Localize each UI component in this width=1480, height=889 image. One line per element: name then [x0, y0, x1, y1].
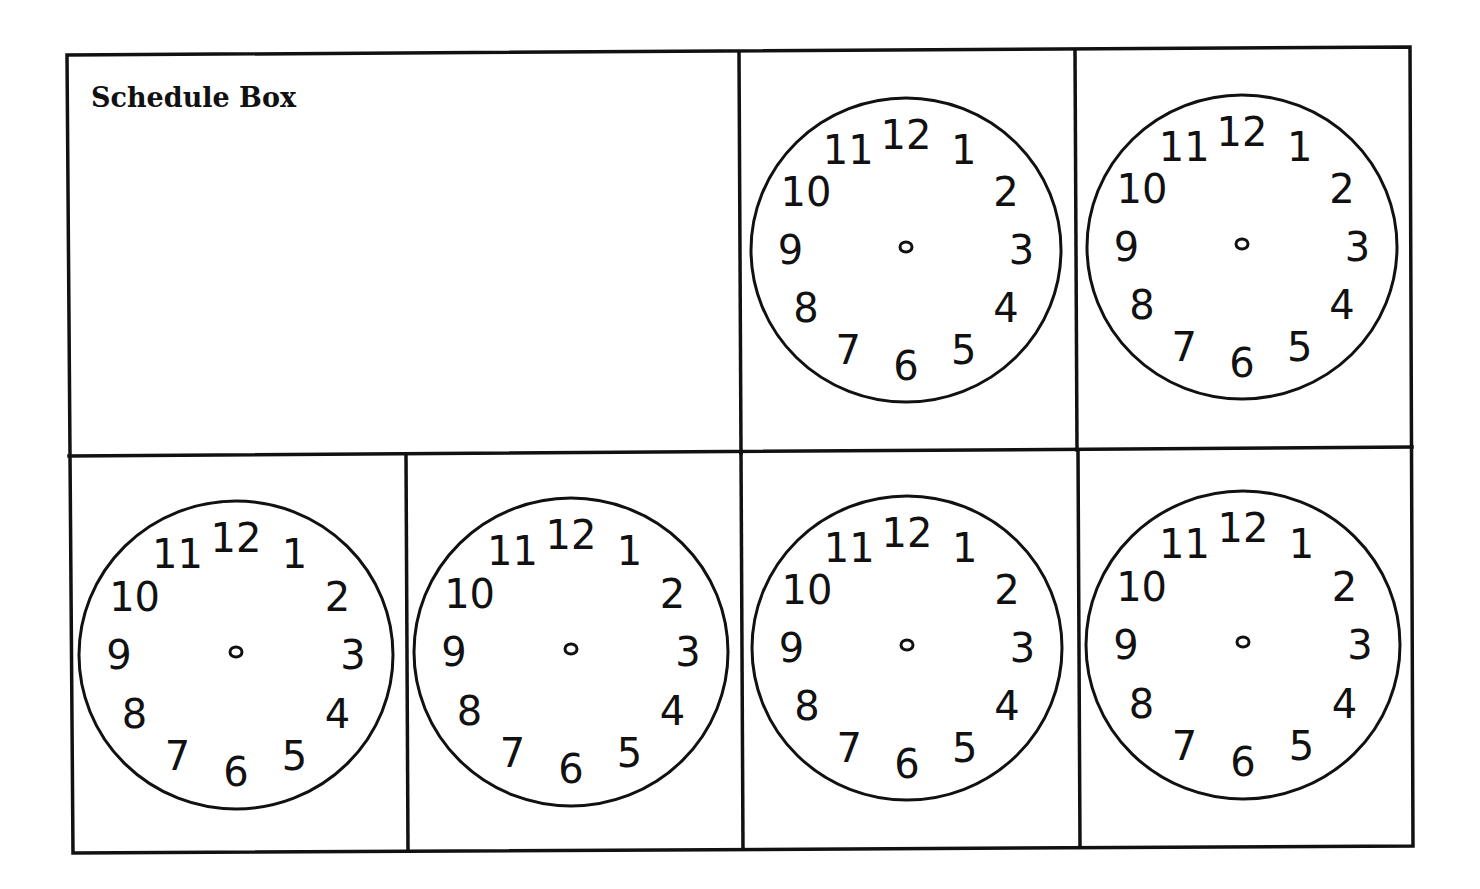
- schedule-box-title: Schedule Box: [91, 82, 296, 113]
- clock-number: 9: [1114, 224, 1139, 270]
- bottom-divider-1: [406, 455, 408, 851]
- clock-number: 7: [1171, 324, 1196, 370]
- clock-number: 6: [894, 741, 919, 787]
- clock-center-dot: [900, 242, 912, 252]
- clock-number: 9: [441, 629, 466, 675]
- clock-number: 2: [1332, 564, 1357, 610]
- clock-center-dot: [230, 647, 242, 657]
- clock-number: 8: [793, 285, 818, 331]
- clock-number: 12: [881, 112, 932, 158]
- clock-number: 9: [778, 227, 803, 273]
- clock-number: 9: [779, 625, 804, 671]
- clock-center-dot: [901, 640, 913, 650]
- clock-face: 121234567891011: [1087, 95, 1397, 399]
- clock-number: 6: [1229, 340, 1254, 386]
- clock-number: 12: [882, 510, 933, 556]
- clock-number: 10: [444, 571, 495, 617]
- top-divider-1: [739, 52, 741, 453]
- clock-number: 8: [1129, 681, 1154, 727]
- clock-face: 121234567891011: [1086, 491, 1400, 799]
- clock-center-dot: [1237, 637, 1249, 647]
- clock-number: 5: [1287, 324, 1312, 370]
- clock-number: 3: [1345, 224, 1370, 270]
- clock-number: 5: [952, 725, 977, 771]
- clock-number: 3: [340, 632, 365, 678]
- schedule-grid: 1212345678910111212345678910111212345678…: [0, 0, 1480, 889]
- clock-number: 10: [109, 574, 160, 620]
- clock-number: 2: [1329, 166, 1354, 212]
- clock-number: 7: [836, 725, 861, 771]
- clock-number: 7: [1172, 723, 1197, 769]
- clock-number: 12: [1218, 505, 1269, 551]
- clock-number: 3: [1009, 227, 1034, 273]
- worksheet: 1212345678910111212345678910111212345678…: [0, 0, 1480, 889]
- clock-number: 9: [1113, 622, 1138, 668]
- clock-number: 1: [1289, 521, 1314, 567]
- clock-number: 1: [951, 127, 976, 173]
- clock-face: 121234567891011: [751, 98, 1061, 402]
- clock-number: 3: [675, 629, 700, 675]
- clock-number: 6: [893, 343, 918, 389]
- clock-number: 5: [282, 733, 307, 779]
- clock-number: 7: [835, 327, 860, 373]
- clock-face: 121234567891011: [414, 498, 728, 806]
- clock-number: 1: [617, 528, 642, 574]
- clock-number: 3: [1010, 625, 1035, 671]
- clock-number: 10: [1117, 166, 1168, 212]
- clock-number: 1: [1287, 124, 1312, 170]
- clock-number: 5: [951, 327, 976, 373]
- clock-number: 10: [781, 169, 832, 215]
- clock-number: 2: [993, 169, 1018, 215]
- bottom-divider-2: [741, 453, 743, 849]
- clock-center-dot: [565, 644, 577, 654]
- clock-number: 4: [660, 688, 685, 734]
- clock-number: 7: [165, 733, 190, 779]
- clock-number: 6: [1230, 739, 1255, 785]
- clock-number: 11: [487, 528, 538, 574]
- clock-number: 10: [782, 567, 833, 613]
- clock-number: 4: [1332, 681, 1357, 727]
- clock-face: 121234567891011: [752, 496, 1062, 800]
- top-divider-2: [1075, 50, 1077, 450]
- clock-number: 8: [122, 691, 147, 737]
- clock-number: 1: [282, 531, 307, 577]
- clock-number: 2: [325, 574, 350, 620]
- clock-number: 1: [952, 525, 977, 571]
- clock-number: 8: [794, 683, 819, 729]
- clock-number: 7: [500, 730, 525, 776]
- clock-number: 9: [106, 632, 131, 678]
- clock-number: 4: [325, 691, 350, 737]
- clock-center-dot: [1236, 239, 1248, 249]
- clock-number: 8: [1129, 282, 1154, 328]
- bottom-divider-3: [1078, 450, 1080, 847]
- clock-number: 4: [1329, 282, 1354, 328]
- clock-number: 11: [823, 127, 874, 173]
- clock-number: 6: [558, 746, 583, 792]
- clock-number: 11: [824, 525, 875, 571]
- clock-number: 11: [1159, 124, 1210, 170]
- clock-number: 12: [211, 515, 262, 561]
- clock-number: 4: [993, 285, 1018, 331]
- clock-number: 12: [1217, 109, 1268, 155]
- clock-number: 12: [546, 512, 597, 558]
- clock-face: 121234567891011: [79, 501, 393, 809]
- clock-number: 8: [457, 688, 482, 734]
- clock-number: 10: [1116, 564, 1167, 610]
- clock-number: 2: [660, 571, 685, 617]
- clock-number: 4: [994, 683, 1019, 729]
- clock-number: 6: [223, 749, 248, 795]
- clock-number: 11: [152, 531, 203, 577]
- clock-number: 5: [1289, 723, 1314, 769]
- clock-number: 3: [1347, 622, 1372, 668]
- clock-number: 5: [617, 730, 642, 776]
- clock-number: 2: [994, 567, 1019, 613]
- clock-number: 11: [1159, 521, 1210, 567]
